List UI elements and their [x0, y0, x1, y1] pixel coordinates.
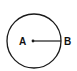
center-dot	[32, 40, 35, 43]
circle-diagram: A B	[0, 0, 77, 71]
label-b: B	[64, 36, 71, 47]
label-a: A	[19, 36, 26, 47]
